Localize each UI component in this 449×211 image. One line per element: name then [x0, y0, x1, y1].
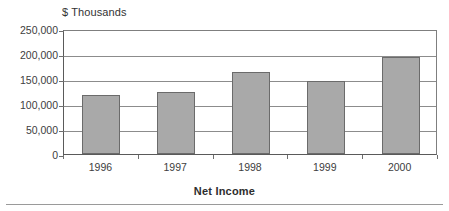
y-axis-tick-label: 50,000 [2, 124, 58, 136]
y-axis-tick-label: 200,000 [2, 49, 58, 61]
y-axis-unit-caption: $ Thousands [62, 6, 127, 18]
x-axis-tick-mark [138, 155, 139, 159]
x-axis-tick-mark [63, 155, 64, 159]
x-axis-tick-label-2000: 2000 [362, 161, 437, 173]
y-axis-tick-label: 0 [2, 149, 58, 161]
bar-slot [214, 31, 289, 154]
y-axis-tick-label: 150,000 [2, 74, 58, 86]
bar-slot [64, 31, 139, 154]
bar-slot [139, 31, 214, 154]
x-axis-tick-mark [213, 155, 214, 159]
y-axis-tick-label: 100,000 [2, 99, 58, 111]
x-axis-tick-mark [437, 155, 438, 159]
y-axis-tick-label: 250,000 [2, 24, 58, 36]
bar-1997 [157, 92, 195, 154]
x-axis-tick-mark [287, 155, 288, 159]
net-income-bar-chart-figure: $ Thousands 250,000200,000150,000100,000… [0, 0, 449, 211]
bar-1999 [307, 81, 345, 154]
bottom-divider-rule [6, 204, 443, 205]
x-axis-tick-label-1997: 1997 [138, 161, 213, 173]
bar-2000 [382, 57, 420, 154]
bar-slot [288, 31, 363, 154]
x-axis-tick-mark [362, 155, 363, 159]
bar-series-net-income [64, 31, 436, 154]
x-axis-tick-label-1998: 1998 [213, 161, 288, 173]
x-axis-title: Net Income [0, 185, 449, 197]
bar-slot [363, 31, 438, 154]
x-axis-tick-label-1996: 1996 [63, 161, 138, 173]
x-axis-tick-label-1999: 1999 [287, 161, 362, 173]
bar-1998 [232, 72, 270, 154]
x-axis: 19961997199819992000 [63, 155, 437, 185]
bar-1996 [82, 95, 120, 154]
